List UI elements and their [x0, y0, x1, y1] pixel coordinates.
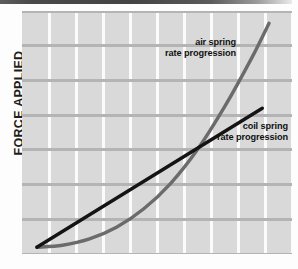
air-spring-annotation: air spring rate progression — [120, 37, 236, 58]
horizontal-gridline — [22, 11, 292, 13]
horizontal-gridline — [22, 183, 292, 186]
horizontal-gridline — [22, 114, 292, 117]
chart-figure: FORCE APPLIED air spring rate progressio… — [0, 0, 298, 269]
horizontal-gridline — [22, 218, 292, 221]
horizontal-gridline — [22, 148, 292, 151]
coil-spring-annotation: coil spring rate progression — [176, 121, 288, 142]
horizontal-gridline — [22, 79, 292, 82]
horizontal-gridline — [22, 253, 292, 255]
top-edge-band — [0, 0, 292, 4]
